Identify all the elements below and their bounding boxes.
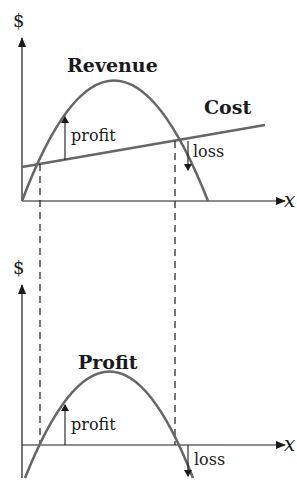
bottom-profit-label: profit [71, 415, 116, 434]
revenue-cost-profit-diagram: $ x Revenue Cost profit loss $ x Profit … [0, 0, 297, 492]
top-profit-label: profit [71, 126, 116, 145]
bottom-y-axis-label: $ [13, 257, 24, 278]
bottom-chart: $ x Profit profit loss [13, 257, 295, 478]
cost-line [22, 125, 265, 167]
top-loss-label: loss [193, 142, 224, 161]
cost-label: Cost [204, 96, 251, 118]
bottom-loss-label: loss [194, 450, 225, 469]
top-x-axis-label: x [284, 188, 295, 212]
bottom-x-axis-label: x [284, 432, 295, 456]
top-y-axis-label: $ [13, 10, 24, 31]
revenue-label: Revenue [67, 54, 158, 76]
profit-curve-label: Profit [78, 351, 138, 373]
top-chart: $ x Revenue Cost profit loss [13, 10, 295, 212]
